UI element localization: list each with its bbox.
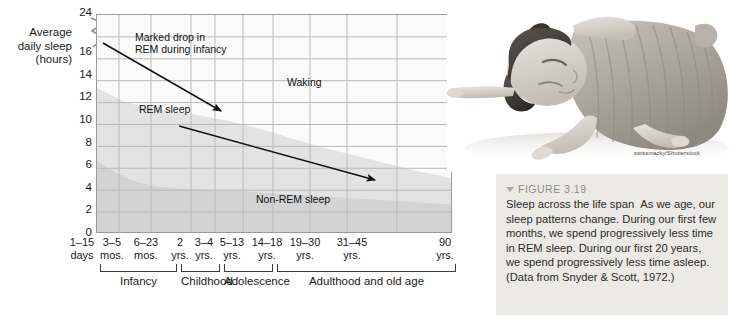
chart-plot-area: Marked drop in REM during infancy REM sl… <box>96 14 452 233</box>
y-tick-16: 16 <box>68 46 92 58</box>
stage-bracket-adolescence <box>224 264 273 272</box>
stage-bracket-infancy <box>100 264 177 272</box>
marked-drop-annotation-line-2: REM during infancy <box>135 43 227 55</box>
non-rem-sleep-label: Non-REM sleep <box>256 194 330 205</box>
sleep-life-span-figure: Average daily sleep (hours) 024681012141… <box>0 0 470 323</box>
stage-label-adolescence: Adolescence <box>224 275 273 288</box>
y-tick-12: 12 <box>68 91 92 103</box>
triangle-down-icon <box>506 187 514 192</box>
y-tick-10: 10 <box>68 114 92 126</box>
y-axis-tick-labels: 024681012141624 <box>62 0 92 260</box>
rem-sleep-label: REM sleep <box>139 104 190 115</box>
x-tick-8: 31–45yrs. <box>322 236 382 261</box>
y-tick-24: 24 <box>68 7 92 19</box>
stage-label-childhood: Childhood <box>181 275 220 288</box>
figure-caption-box: FIGURE 3.19 Sleep across the life span A… <box>496 174 728 315</box>
figure-title: Sleep across the life span <box>506 198 634 210</box>
photo-credit: swissmacky/Shutterstock <box>634 150 700 156</box>
stage-bracket-adulthood <box>277 264 456 272</box>
waking-label: Waking <box>287 77 322 88</box>
x-tick-9-unit: yrs. <box>415 249 475 262</box>
y-tick-2: 2 <box>68 204 92 216</box>
stage-bracket-childhood <box>181 264 220 272</box>
marked-drop-annotation: Marked drop in REM during infancy <box>135 31 227 56</box>
y-tick-14: 14 <box>68 69 92 81</box>
life-stage-brackets: InfancyChildhoodAdolescenceAdulthood and… <box>60 264 470 304</box>
marked-drop-annotation-line-1: Marked drop in <box>135 31 227 43</box>
stage-label-infancy: Infancy <box>100 275 177 288</box>
stage-label-adulthood: Adulthood and old age <box>277 275 456 288</box>
figure-caption-text: Sleep across the life span As we age, ou… <box>506 197 718 285</box>
figure-number-header: FIGURE 3.19 <box>506 183 718 195</box>
x-axis-tick-labels: 1–15days3–5mos.6–23mos.2yrs.3–4yrs.5–13y… <box>60 236 470 266</box>
y-tick-6: 6 <box>68 159 92 171</box>
figure-number-label: FIGURE 3.19 <box>518 183 587 195</box>
y-tick-8: 8 <box>68 137 92 149</box>
y-tick-4: 4 <box>68 182 92 194</box>
x-tick-8-value: 31–45 <box>322 236 382 249</box>
x-tick-9: 90yrs. <box>415 236 475 261</box>
sleeping-child-photo <box>447 0 741 172</box>
figure-caption-prose: As we age, our sleep patterns change. Du… <box>506 198 716 283</box>
x-tick-8-unit: yrs. <box>322 249 382 262</box>
x-tick-9-value: 90 <box>415 236 475 249</box>
